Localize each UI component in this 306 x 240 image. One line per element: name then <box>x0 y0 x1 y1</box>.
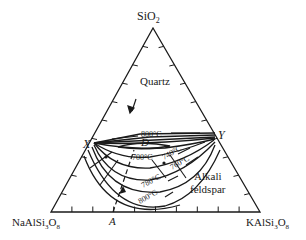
field-feldspar-2: feldspar <box>190 183 226 195</box>
label-albite: NaAlSi3O8 <box>12 216 60 231</box>
isotherm-800-top: 800°C <box>141 130 162 139</box>
field-feldspar-1: Alkali <box>194 170 222 182</box>
label-sio2: SiO2 <box>137 9 160 25</box>
isotherm-700: 700°C <box>132 153 153 162</box>
point-y: Y <box>218 128 226 142</box>
point-a: A <box>108 215 116 227</box>
arrow-icon <box>128 99 136 113</box>
point-x: X <box>82 137 91 151</box>
ternary-diagram: SiO2 NaAlSi3O8 KAlSi3O8 Quartz Alkali fe… <box>0 0 306 240</box>
triangle-frame <box>51 28 260 212</box>
label-orthoclase: KAlSi3O8 <box>246 216 290 231</box>
isotherm-800-bottom: 800°C <box>137 188 159 206</box>
isotherm-780: 780°C <box>140 172 162 190</box>
field-quartz: Quartz <box>140 75 170 87</box>
